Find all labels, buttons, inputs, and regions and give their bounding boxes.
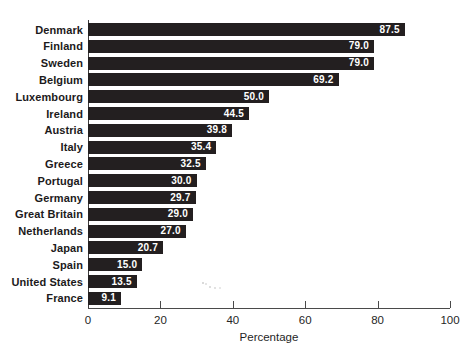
- bar: 79.0: [88, 57, 374, 70]
- category-label: Greece: [0, 157, 88, 171]
- bar: 29.7: [88, 191, 196, 204]
- bar: 32.5: [88, 157, 206, 170]
- bar: 50.0: [88, 90, 269, 103]
- x-axis-line: [88, 308, 450, 309]
- category-label: Denmark: [0, 23, 88, 37]
- value-label: 87.5: [379, 25, 399, 35]
- bar: 39.8: [88, 124, 232, 137]
- x-axis-tick: [160, 301, 161, 308]
- bar: 15.0: [88, 258, 142, 271]
- x-axis-tick: [233, 301, 234, 308]
- category-label: Italy: [0, 140, 88, 154]
- x-tick-label: 60: [288, 314, 322, 327]
- value-label: 69.2: [313, 75, 333, 85]
- x-tick-label: 20: [143, 314, 177, 327]
- category-label: Portugal: [0, 174, 88, 188]
- category-label: Belgium: [0, 73, 88, 87]
- value-label: 35.4: [191, 142, 211, 152]
- value-label: 9.1: [101, 293, 116, 303]
- value-label: 30.0: [171, 176, 191, 186]
- category-label: United States: [0, 275, 88, 289]
- x-tick-label: 0: [71, 314, 105, 327]
- x-tick-label: 40: [216, 314, 250, 327]
- category-label: Finland: [0, 39, 88, 53]
- plot-area: Percentage Denmark87.5Finland79.0Sweden7…: [0, 0, 465, 362]
- category-label: Ireland: [0, 107, 88, 121]
- value-label: 13.5: [112, 277, 132, 287]
- x-axis-tick: [305, 301, 306, 308]
- value-label: 20.7: [138, 243, 158, 253]
- bar: 13.5: [88, 275, 137, 288]
- value-label: 44.5: [224, 109, 244, 119]
- category-label: Great Britain: [0, 207, 88, 221]
- bar: 35.4: [88, 141, 216, 154]
- x-tick-label: 80: [361, 314, 395, 327]
- category-label: France: [0, 291, 88, 305]
- bar-chart: Percentage Denmark87.5Finland79.0Sweden7…: [0, 0, 465, 362]
- category-label: Austria: [0, 123, 88, 137]
- bar: 69.2: [88, 73, 339, 86]
- value-label: 79.0: [349, 58, 369, 68]
- category-label: Netherlands: [0, 224, 88, 238]
- value-label: 32.5: [180, 159, 200, 169]
- bar: 30.0: [88, 174, 197, 187]
- x-axis-tick: [378, 301, 379, 308]
- x-axis-tick: [450, 301, 451, 308]
- bar: 29.0: [88, 208, 193, 221]
- category-label: Spain: [0, 258, 88, 272]
- x-axis-title: Percentage: [88, 331, 450, 344]
- value-label: 29.0: [168, 209, 188, 219]
- value-label: 15.0: [117, 260, 137, 270]
- category-label: Sweden: [0, 56, 88, 70]
- value-label: 50.0: [244, 92, 264, 102]
- bar: 27.0: [88, 225, 186, 238]
- bar: 44.5: [88, 107, 249, 120]
- x-tick-label: 100: [433, 314, 465, 327]
- value-label: 29.7: [170, 193, 190, 203]
- bar: 79.0: [88, 40, 374, 53]
- value-label: 27.0: [160, 226, 180, 236]
- category-label: Germany: [0, 191, 88, 205]
- value-label: 79.0: [349, 41, 369, 51]
- value-label: 39.8: [207, 125, 227, 135]
- bar: 9.1: [88, 292, 121, 305]
- bar: 87.5: [88, 23, 405, 36]
- category-label: Luxembourg: [0, 90, 88, 104]
- category-label: Japan: [0, 241, 88, 255]
- bar: 20.7: [88, 241, 163, 254]
- scan-artifact-dots: [202, 282, 204, 284]
